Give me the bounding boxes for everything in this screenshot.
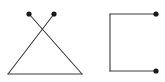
right-endpoint-dot (51, 11, 56, 16)
bottom-right-endpoint-dot (153, 68, 158, 73)
left-endpoint-dot (26, 11, 31, 16)
top-right-endpoint-dot (153, 11, 158, 16)
line-figure-diagram (0, 0, 165, 82)
canvas-background (0, 0, 165, 82)
